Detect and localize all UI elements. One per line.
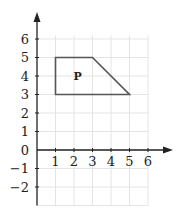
y-tick-label: 4 <box>21 69 29 84</box>
y-tick-label: −2 <box>10 180 29 195</box>
coordinate-grid: 123456123456−1−20 P <box>0 0 183 223</box>
x-tick-label: 1 <box>51 154 59 169</box>
y-tick-label: 2 <box>21 106 29 121</box>
y-tick-label: 1 <box>21 124 29 139</box>
y-tick-label: 5 <box>21 50 29 65</box>
y-axis-arrow-icon <box>34 12 41 22</box>
x-tick-label: 3 <box>88 154 96 169</box>
shape-p-label: P <box>74 70 82 83</box>
x-tick-label: 4 <box>107 154 115 169</box>
x-tick-label: 6 <box>144 154 152 169</box>
x-tick-label: 5 <box>125 154 133 169</box>
grid-lines <box>37 35 148 205</box>
x-axis-arrow-icon <box>163 147 173 154</box>
axes <box>34 12 174 206</box>
y-tick-label: 3 <box>21 87 29 102</box>
origin-label: 0 <box>21 143 29 158</box>
x-tick-label: 2 <box>70 154 78 169</box>
y-tick-label: 6 <box>21 32 29 47</box>
y-tick-label: −1 <box>10 161 29 176</box>
